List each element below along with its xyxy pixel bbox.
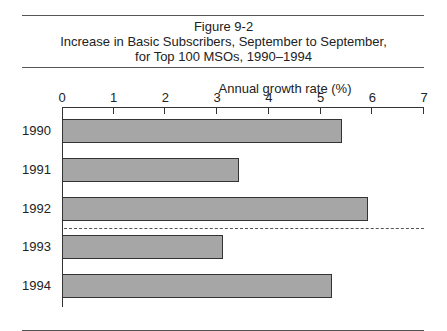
title-rule <box>22 67 424 68</box>
category-label: 1990 <box>22 123 52 138</box>
x-tick-label: 1 <box>104 90 124 105</box>
x-tick-mark <box>371 107 372 114</box>
figure-title-line2: for Top 100 MSOs, 1990–1994 <box>0 49 447 65</box>
x-tick-label: 2 <box>155 90 175 105</box>
category-label: 1993 <box>22 239 52 254</box>
x-tick-mark <box>216 107 217 114</box>
x-tick-label: 7 <box>414 90 434 105</box>
x-tick-mark <box>113 107 114 114</box>
bar-1990 <box>62 119 342 143</box>
figure-number: Figure 9-2 <box>0 19 447 35</box>
x-tick-label: 6 <box>362 90 382 105</box>
x-tick-mark <box>164 107 165 114</box>
x-tick-label: 0 <box>52 90 72 105</box>
x-tick-label: 4 <box>259 90 279 105</box>
x-tick-label: 3 <box>207 90 227 105</box>
bar-1991 <box>62 158 239 182</box>
x-tick-label: 5 <box>311 90 331 105</box>
category-label: 1992 <box>22 201 52 216</box>
bar-1992 <box>62 197 368 221</box>
x-axis-line <box>62 107 424 108</box>
category-label: 1994 <box>22 278 52 293</box>
x-tick-mark <box>423 107 424 114</box>
dashed-separator <box>64 228 424 229</box>
bar-1993 <box>62 235 223 259</box>
bar-1994 <box>62 274 332 298</box>
top-rule <box>22 15 424 16</box>
x-tick-mark <box>320 107 321 114</box>
category-label: 1991 <box>22 162 52 177</box>
x-tick-mark <box>268 107 269 114</box>
figure-title-line1: Increase in Basic Subscribers, September… <box>0 34 447 50</box>
